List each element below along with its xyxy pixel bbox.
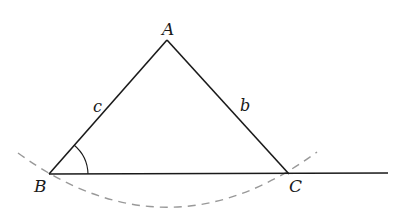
dashed-arc	[18, 152, 317, 207]
side-b-ac	[167, 40, 289, 174]
side-c-ab	[49, 40, 167, 174]
side-label-b: b	[240, 96, 250, 115]
baseline-bc-extended	[49, 173, 388, 174]
vertex-label-c: C	[289, 176, 302, 196]
vertex-label-a: A	[160, 19, 174, 39]
angle-mark-b	[74, 145, 88, 174]
side-label-c: c	[93, 97, 102, 116]
triangle-diagram: A B C c b	[0, 0, 397, 220]
vertex-label-b: B	[33, 176, 47, 196]
